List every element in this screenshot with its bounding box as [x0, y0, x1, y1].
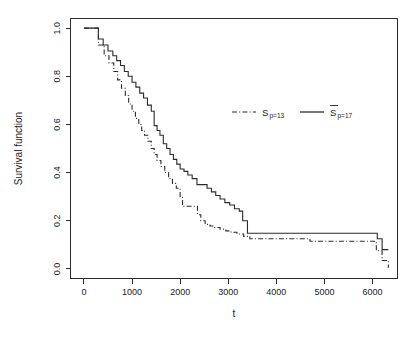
curve-solid	[84, 28, 388, 249]
y-axis-title: Survival function	[13, 112, 24, 185]
y-tick-label: 1.0	[53, 22, 63, 35]
x-tick-label: 6000	[362, 287, 382, 297]
y-tick-label: 0.4	[53, 166, 63, 179]
x-axis-title: t	[233, 308, 236, 319]
x-tick-label: 0	[81, 287, 86, 297]
y-tick-label: 0.6	[53, 118, 63, 131]
survival-function-chart: 01000200030004000500060000.00.20.40.60.8…	[0, 0, 419, 348]
x-tick-label: 2000	[170, 287, 190, 297]
legend-label-2: S	[330, 107, 336, 118]
x-tick-label: 5000	[314, 287, 334, 297]
x-tick-label: 1000	[122, 287, 142, 297]
legend-label-1: S	[262, 107, 268, 118]
y-tick-label: 0.8	[53, 70, 63, 83]
legend-subscript-1: p=13	[270, 112, 285, 120]
x-tick-label: 4000	[266, 287, 286, 297]
chart-canvas: 01000200030004000500060000.00.20.40.60.8…	[0, 0, 419, 348]
y-tick-label: 0.0	[53, 263, 63, 276]
curve-dashdot	[84, 28, 388, 268]
x-tick-label: 3000	[218, 287, 238, 297]
y-tick-label: 0.2	[53, 214, 63, 227]
legend-subscript-2: p=17	[338, 112, 353, 120]
plot-frame	[71, 19, 398, 279]
